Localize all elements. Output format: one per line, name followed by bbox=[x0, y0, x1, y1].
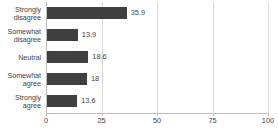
x-axis-tick-label: 75 bbox=[208, 116, 216, 126]
category-label: Stronglydisagree bbox=[0, 6, 41, 22]
plot-area: 35.913.918.61813.6 bbox=[46, 2, 268, 113]
x-axis-tick-mark bbox=[46, 113, 47, 116]
category-axis-labels: StronglydisagreeSomewhatdisagreeNeutralS… bbox=[0, 3, 44, 113]
bar-value-label: 13.9 bbox=[82, 29, 96, 41]
x-axis-tick-label: 100 bbox=[262, 116, 274, 126]
category-label: Somewhatdisagree bbox=[0, 28, 41, 44]
category-label: Somewhatagree bbox=[0, 72, 41, 88]
gridline bbox=[157, 2, 158, 113]
x-axis-tick-mark bbox=[213, 113, 214, 116]
bar-value-label: 13.6 bbox=[81, 95, 95, 107]
category-label: Stronglyagree bbox=[0, 94, 41, 110]
x-axis-tick-mark bbox=[157, 113, 158, 116]
category-label-line: Neutral bbox=[0, 54, 41, 62]
category-label: Neutral bbox=[0, 54, 41, 62]
x-axis-tick-label: 50 bbox=[153, 116, 161, 126]
bar bbox=[47, 29, 78, 41]
bar bbox=[47, 73, 87, 85]
category-label-line: disagree bbox=[0, 14, 41, 22]
gridline bbox=[213, 2, 214, 113]
x-axis-tick-labels: 0255075100 bbox=[46, 116, 268, 130]
x-axis-tick-label: 25 bbox=[97, 116, 105, 126]
category-label-line: disagree bbox=[0, 36, 41, 44]
category-label-line: agree bbox=[0, 102, 41, 110]
x-axis-tick-label: 0 bbox=[44, 116, 48, 126]
bar bbox=[47, 95, 77, 107]
bar-chart: StronglydisagreeSomewhatdisagreeNeutralS… bbox=[0, 0, 278, 134]
bar bbox=[47, 7, 127, 19]
bar-value-label: 35.9 bbox=[131, 7, 145, 19]
x-axis-tick-mark bbox=[102, 113, 103, 116]
bar-value-label: 18 bbox=[91, 73, 99, 85]
x-axis-tick-mark bbox=[268, 113, 269, 116]
bar bbox=[47, 51, 88, 63]
gridline bbox=[268, 2, 269, 113]
category-label-line: agree bbox=[0, 80, 41, 88]
bar-value-label: 18.6 bbox=[92, 51, 106, 63]
